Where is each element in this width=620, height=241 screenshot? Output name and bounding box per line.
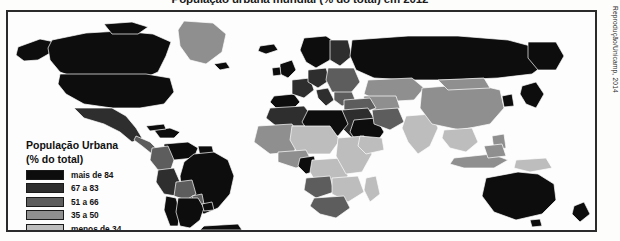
legend-swatch-0 bbox=[26, 170, 64, 180]
region-russia bbox=[350, 36, 548, 80]
legend-label-1: 67 a 83 bbox=[71, 183, 99, 193]
urban-population-map-figure: População urbana mundial (% do total) em… bbox=[0, 0, 620, 241]
map-title: População urbana mundial (% do total) em… bbox=[0, 0, 600, 5]
map-frame: População Urbana (% do total) mais de 84… bbox=[6, 10, 597, 232]
region-uruguay bbox=[202, 202, 214, 211]
legend-item: menos de 34 bbox=[26, 222, 148, 232]
source-credit: Reprodução/Unicamp, 2014 bbox=[612, 6, 619, 93]
region-ireland bbox=[272, 67, 281, 76]
region-sahel bbox=[290, 126, 340, 154]
legend-swatch-4 bbox=[26, 224, 64, 232]
legend-label-4: menos de 34 bbox=[71, 224, 121, 232]
region-korea bbox=[502, 94, 514, 107]
legend-title-line1: População Urbana bbox=[26, 139, 148, 153]
region-borneo bbox=[484, 144, 506, 158]
legend-item: 51 a 66 bbox=[26, 195, 148, 209]
region-tasmania bbox=[530, 219, 542, 227]
legend-item: mais de 84 bbox=[26, 168, 148, 182]
legend-title-line2: (% do total) bbox=[26, 153, 148, 167]
legend-swatch-3 bbox=[26, 210, 64, 220]
legend-class-list: mais de 84 67 a 83 51 a 66 35 a 50 menos… bbox=[26, 168, 148, 232]
legend-label-2: 51 a 66 bbox=[71, 197, 99, 207]
legend-label-3: 35 a 50 bbox=[71, 210, 99, 220]
legend-label-0: mais de 84 bbox=[71, 170, 113, 180]
legend-item: 67 a 83 bbox=[26, 182, 148, 196]
legend-swatch-2 bbox=[26, 197, 64, 207]
map-legend: População Urbana (% do total) mais de 84… bbox=[26, 139, 148, 232]
legend-item: 35 a 50 bbox=[26, 209, 148, 223]
legend-swatch-1 bbox=[26, 183, 64, 193]
region-mongolia bbox=[438, 78, 490, 90]
